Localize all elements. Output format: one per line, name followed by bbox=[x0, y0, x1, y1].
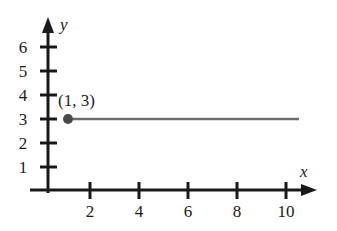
y-tick-label-6: 6 bbox=[14, 39, 32, 56]
point-coordinate-label: (1, 3) bbox=[58, 92, 95, 109]
coordinate-plane-figure: 6 5 4 3 2 1 2 4 6 8 10 y x (1, 3) bbox=[0, 0, 337, 231]
y-axis-label: y bbox=[60, 16, 68, 33]
x-tick-label-8: 8 bbox=[225, 203, 249, 220]
x-tick-label-10: 10 bbox=[274, 203, 298, 220]
y-axis-arrowhead bbox=[42, 17, 54, 33]
x-tick-label-4: 4 bbox=[127, 203, 151, 220]
x-axis-arrowhead bbox=[301, 184, 317, 196]
x-tick-label-2: 2 bbox=[78, 203, 102, 220]
plot-canvas bbox=[0, 0, 337, 231]
y-tick-label-1: 1 bbox=[14, 159, 32, 176]
y-tick-label-5: 5 bbox=[14, 63, 32, 80]
y-tick-label-2: 2 bbox=[14, 135, 32, 152]
endpoint-dot-1-3 bbox=[63, 114, 73, 124]
y-tick-label-4: 4 bbox=[14, 87, 32, 104]
y-tick-label-3: 3 bbox=[14, 111, 32, 128]
x-tick-label-6: 6 bbox=[176, 203, 200, 220]
x-axis-label: x bbox=[300, 163, 308, 180]
